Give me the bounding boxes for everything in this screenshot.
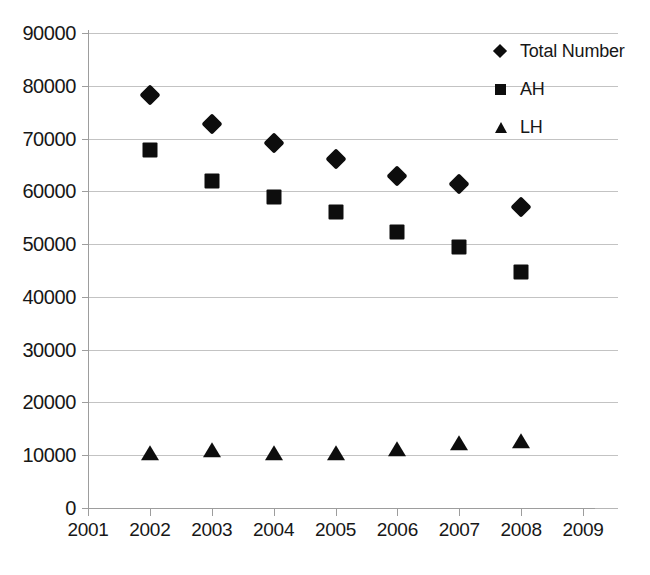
data-point-square: [266, 189, 281, 204]
x-tick-mark: [397, 509, 398, 516]
y-tick-label: 50000: [22, 233, 76, 256]
y-tick-label: 0: [65, 497, 76, 520]
legend-marker-diamond-icon: [495, 46, 517, 56]
y-tick-label: 90000: [22, 22, 76, 45]
x-tick-label: 2005: [315, 519, 356, 541]
data-point-triangle: [203, 442, 221, 457]
data-point-triangle: [450, 435, 468, 450]
legend-item-label: LH: [520, 117, 543, 138]
legend-item[interactable]: Total Number: [495, 32, 645, 70]
data-point-diamond: [449, 174, 470, 195]
legend-item[interactable]: AH: [495, 70, 645, 108]
data-point-triangle: [512, 433, 530, 448]
x-tick-mark: [274, 509, 275, 516]
data-point-square: [514, 264, 529, 279]
x-tick-label: 2001: [67, 519, 108, 541]
data-point-diamond: [325, 149, 346, 170]
x-tick-mark: [212, 509, 213, 516]
x-tick-label: 2003: [191, 519, 232, 541]
x-tick-label: 2008: [501, 519, 542, 541]
y-tick-label: 20000: [22, 391, 76, 414]
data-point-diamond: [387, 165, 408, 186]
x-axis-line: [88, 508, 595, 509]
data-point-square: [452, 239, 467, 254]
data-point-triangle: [141, 445, 159, 460]
diamond-icon: [493, 44, 507, 58]
data-point-diamond: [263, 132, 284, 153]
triangle-icon: [495, 122, 507, 133]
x-tick-label: 2006: [377, 519, 418, 541]
x-tick-mark: [521, 509, 522, 516]
y-tick-label: 60000: [22, 180, 76, 203]
data-point-square: [390, 224, 405, 239]
x-tick-mark: [150, 509, 151, 516]
data-point-square: [328, 205, 343, 220]
legend-item-label: AH: [520, 79, 545, 100]
data-point-triangle: [327, 445, 345, 460]
x-tick-label: 2007: [439, 519, 480, 541]
y-tick-label: 80000: [22, 74, 76, 97]
x-tick-mark: [88, 509, 89, 516]
square-icon: [495, 84, 506, 95]
y-tick-label: 70000: [22, 127, 76, 150]
x-tick-mark: [459, 509, 460, 516]
y-tick-label: 10000: [22, 444, 76, 467]
y-tick-label: 40000: [22, 285, 76, 308]
legend-item[interactable]: LH: [495, 108, 645, 146]
data-point-diamond: [511, 197, 532, 218]
legend-item-label: Total Number: [520, 41, 625, 62]
x-tick-mark: [336, 509, 337, 516]
x-tick-label: 2002: [129, 519, 170, 541]
legend-marker-square-icon: [495, 84, 517, 95]
data-point-diamond: [201, 114, 222, 135]
data-point-triangle: [388, 441, 406, 456]
x-tick-mark: [583, 509, 584, 516]
legend-marker-triangle-icon: [495, 122, 517, 133]
scatter-chart: 9000080000700006000050000400003000020000…: [0, 0, 650, 575]
data-point-square: [142, 143, 157, 158]
data-point-square: [204, 174, 219, 189]
x-tick-label: 2009: [562, 519, 603, 541]
y-tick-label: 30000: [22, 338, 76, 361]
data-point-triangle: [265, 445, 283, 460]
chart-legend: Total NumberAHLH: [495, 32, 645, 146]
data-point-diamond: [139, 85, 160, 106]
x-tick-label: 2004: [253, 519, 294, 541]
